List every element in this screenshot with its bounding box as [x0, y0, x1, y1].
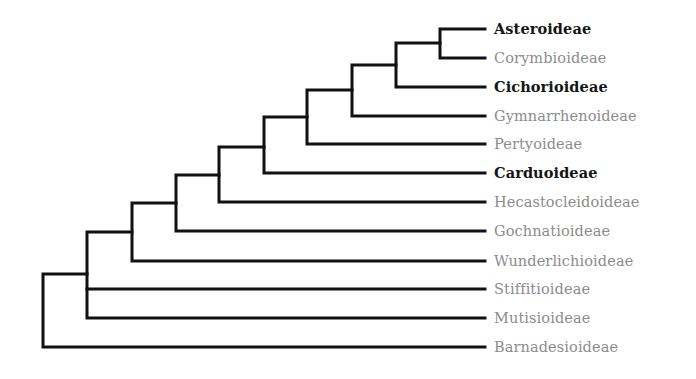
taxon-label-gymnarrhenoideae: Gymnarrhenoideae	[494, 107, 637, 125]
taxon-label-pertyoideae: Pertyoideae	[494, 135, 582, 153]
branch-asteroideae-corymbioideae	[440, 29, 485, 58]
taxon-label-carduoideae: Carduoideae	[494, 164, 598, 182]
taxon-label-cichorioideae: Cichorioideae	[494, 78, 608, 96]
taxon-label-wunderlichioideae: Wunderlichioideae	[494, 252, 633, 270]
taxon-label-gochnatioideae: Gochnatioideae	[494, 222, 610, 240]
taxon-label-barnadesioideae: Barnadesioideae	[494, 338, 618, 356]
taxon-label-corymbioideae: Corymbioideae	[494, 49, 606, 67]
taxon-label-hecastocleidoideae: Hecastocleidoideae	[494, 193, 640, 211]
taxon-label-stiffitioideae: Stiffitioideae	[494, 280, 590, 298]
branch-mutisioideae-stiffitioideae-clade	[87, 232, 485, 318]
branch-gymnarrhenoideae-clade	[352, 65, 485, 116]
branch-root	[43, 274, 485, 347]
taxon-label-asteroideae: Asteroideae	[494, 20, 591, 38]
taxon-label-mutisioideae: Mutisioideae	[494, 309, 590, 327]
